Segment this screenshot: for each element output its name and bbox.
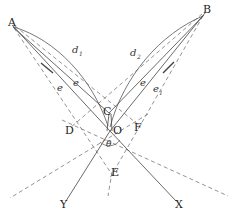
- line-O-to-X: [110, 131, 176, 201]
- dash-A-to-F: [15, 26, 140, 126]
- length-label-e-b-outer: e: [140, 77, 146, 88]
- point-label-D: D: [65, 124, 74, 137]
- point-label-group: A B C O D E F X Y: [7, 3, 211, 211]
- dash-D-through-O-right: [62, 120, 228, 196]
- ray-B-to-C: [109, 15, 204, 113]
- point-label-O: O: [113, 124, 122, 137]
- length-sub-e-b-inner: 1: [159, 89, 163, 96]
- length-sub-d2: 2: [136, 53, 141, 60]
- point-label-C: C: [103, 105, 111, 118]
- geometry-figure: A B C O D E F X Y d 1 d 2 e e e e 1: [0, 0, 232, 223]
- point-label-A: A: [7, 16, 17, 29]
- length-label-d2: d: [130, 47, 136, 58]
- angle-label-group: θ: [106, 139, 112, 149]
- length-label-d1: d: [72, 44, 78, 55]
- ray-A-to-C: [13, 27, 109, 113]
- ray-B-to-O: [110, 13, 205, 131]
- point-label-B: B: [203, 3, 211, 16]
- figure-canvas: A B C O D E F X Y d 1 d 2 e e e e 1: [0, 0, 232, 223]
- dash-F-through-O-left: [10, 114, 148, 198]
- point-label-F: F: [134, 121, 142, 134]
- line-O-to-Y: [66, 131, 110, 201]
- length-sub-d1: 1: [79, 50, 83, 57]
- ray-A-to-O: [12, 25, 110, 131]
- dash-B-to-E: [110, 16, 203, 178]
- length-label-e-a-outer: e: [57, 82, 63, 93]
- length-label-e-a-inner: e: [73, 77, 79, 88]
- point-label-Y: Y: [59, 198, 68, 211]
- point-label-E: E: [111, 166, 119, 179]
- angle-label-theta: θ: [106, 139, 112, 149]
- tick-mark-group: [41, 62, 174, 73]
- point-label-X: X: [175, 198, 183, 211]
- length-label-group: d 1 d 2 e e e e 1: [57, 44, 163, 96]
